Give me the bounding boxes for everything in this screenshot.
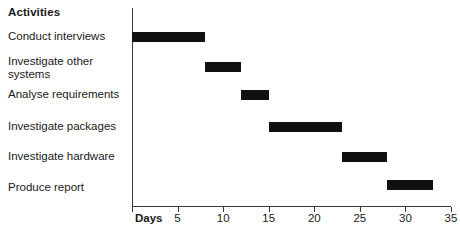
x-axis-line xyxy=(132,206,451,207)
activity-label: Investigate other systems xyxy=(8,55,128,81)
gantt-chart: Activities Conduct interviewsInvestigate… xyxy=(0,0,460,233)
gantt-bar xyxy=(387,180,433,190)
activity-label: Produce report xyxy=(8,181,128,194)
x-axis-tick-label: 25 xyxy=(353,212,366,224)
activity-label: Conduct interviews xyxy=(8,30,128,43)
activity-label: Investigate packages xyxy=(8,120,128,133)
x-axis-tick-label: 35 xyxy=(445,212,458,224)
x-axis-tick-label: 15 xyxy=(262,212,275,224)
x-axis-tick-label: 20 xyxy=(308,212,321,224)
activity-label: Investigate hardware xyxy=(8,150,128,163)
x-axis-title: Days xyxy=(135,212,163,224)
x-axis-tick-label: 30 xyxy=(399,212,412,224)
x-axis-tick-label: 10 xyxy=(217,212,230,224)
gantt-bar xyxy=(269,122,342,132)
activities-column-header: Activities xyxy=(8,6,60,18)
gantt-bar xyxy=(205,62,241,72)
gantt-bar xyxy=(132,32,205,42)
x-axis-tick xyxy=(132,207,133,212)
gantt-bar xyxy=(241,90,268,100)
gantt-bar xyxy=(342,152,388,162)
x-axis-tick-label: 5 xyxy=(174,212,180,224)
activity-label: Analyse requirements xyxy=(8,88,128,101)
